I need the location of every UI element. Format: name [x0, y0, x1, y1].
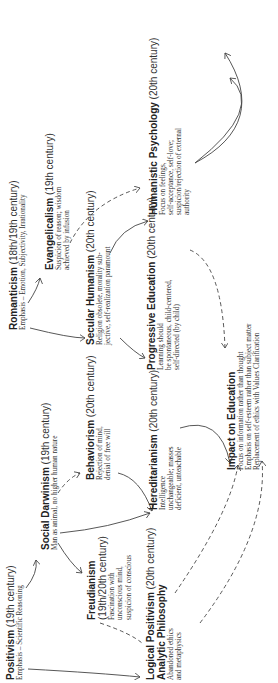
node-desc: self-directed (by child): [173, 197, 181, 370]
node-evangelicalism: Evangelicalism (19th century) Suspicion …: [44, 133, 71, 270]
diagram-canvas: Positivism (19th century) Emphasis – Sci…: [0, 0, 278, 683]
node-desc: Suspicion of reason; wisdom: [55, 133, 63, 270]
node-desc: unconscious mind,: [116, 536, 124, 620]
node-behaviorism: Behaviorism (20th century) Rejection of …: [85, 355, 112, 480]
node-era: (19th/20th century): [97, 536, 108, 620]
node-desc: Fascination with: [108, 536, 116, 620]
node-title: Humanistic Psychology: [148, 102, 159, 215]
node-desc: Man as animal, no higher human nature: [51, 403, 59, 550]
node-romanticism: Romanticism (18th/19th century) Emphasis…: [8, 180, 27, 330]
node-desc: authority: [183, 38, 191, 215]
node-desc: self-acceptance, self-love;: [167, 38, 175, 215]
node-desc: Focus on information rather than thought: [237, 324, 245, 471]
node-desc: Abandoned ethics: [167, 528, 175, 680]
node-desc: jective, self-realization paramount: [104, 190, 112, 345]
node-desc: Focus on feelings,: [159, 38, 167, 215]
node-desc: Rejection of mind,: [96, 355, 104, 480]
node-impact-on-education: Impact on Education Focus on information…: [226, 324, 261, 471]
node-title: Positivism: [5, 630, 16, 680]
node-desc: achieved by infusion: [63, 133, 71, 270]
node-secular-humanism: Secular Humanism (20th century) Religion…: [85, 190, 112, 345]
node-era: (20th century): [85, 190, 96, 252]
node-positivism: Positivism (19th century) Emphasis – Sci…: [5, 565, 24, 680]
node-desc: Replacement of ethics with Values Clarif…: [253, 324, 261, 471]
node-desc: suspicion of conscious: [125, 536, 133, 620]
node-desc: denial of free will: [104, 355, 112, 480]
node-era: (20th century): [85, 355, 96, 417]
node-title: Secular Humanism: [85, 255, 96, 345]
node-title: Hereditarianism: [148, 434, 159, 510]
node-desc: Emphasis – Emotion, Subjectivity, Irrati…: [19, 180, 27, 330]
node-title: Romanticism: [8, 267, 19, 330]
node-desc: unchangeable; masses: [167, 370, 175, 510]
node-title: Impact on Education: [226, 372, 237, 470]
node-title: Freudianism: [86, 561, 97, 620]
node-title: Logical Positivism: [145, 592, 156, 680]
node-social-darwinism: Social Darwinism (19th century) Man as a…: [40, 403, 59, 550]
node-title: Evangelicalism: [44, 198, 55, 270]
node-hereditarianism: Hereditarianism (20th century) Intellige…: [148, 370, 183, 510]
node-desc: Intelligence: [159, 370, 167, 510]
node-humanistic-psychology: Humanistic Psychology (20th century) Foc…: [148, 38, 191, 215]
node-freudianism: Freudianism (19th/20th century) Fascinat…: [86, 536, 133, 620]
node-desc: Religion obsolete, morality sub-: [96, 190, 104, 345]
node-desc: suspicion/rejection of external: [175, 38, 183, 215]
node-era: (19th century): [44, 133, 55, 195]
node-era: (19th century): [5, 565, 16, 627]
node-era: (20th century): [145, 528, 156, 590]
node-logical-positivism: Logical Positivism (20th century) Analyt…: [145, 528, 184, 680]
node-desc: Emphasis – Scientific Reasoning: [16, 565, 24, 680]
node-desc: deficient, unteachable: [175, 370, 183, 510]
node-desc: be spontaneous, child-centered,: [165, 197, 173, 370]
node-era: (19th century): [40, 403, 51, 465]
node-era: (20th century): [148, 38, 159, 100]
node-era: (20th century): [148, 370, 159, 432]
node-subtitle: Analytic Philosophy: [156, 584, 167, 680]
node-desc: Learning should: [157, 197, 165, 370]
node-title: Behaviorism: [85, 420, 96, 480]
node-desc: and metaphysics: [175, 528, 183, 680]
node-title: Progressive Education: [146, 262, 157, 370]
node-progressive-education: Progressive Education (20th century) Lea…: [146, 197, 181, 370]
node-era: (18th/19th century): [8, 180, 19, 264]
node-title: Social Darwinism: [40, 467, 51, 550]
node-desc: Emphasis on self-esteem rather than subj…: [245, 324, 253, 471]
